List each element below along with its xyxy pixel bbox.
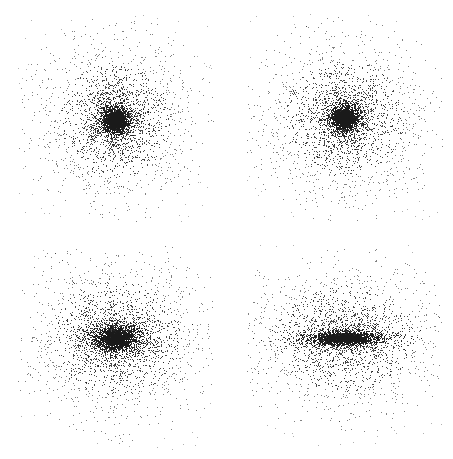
scatter-figure	[0, 0, 453, 459]
panel-bottom-right	[247, 245, 443, 450]
panel-top-left-canvas	[18, 14, 214, 222]
panel-bottom-left-canvas	[18, 245, 214, 450]
panel-top-left	[18, 14, 214, 222]
panel-bottom-left	[18, 245, 214, 450]
panel-bottom-right-canvas	[247, 245, 443, 450]
panel-top-right	[247, 14, 443, 222]
panel-top-right-canvas	[247, 14, 443, 222]
